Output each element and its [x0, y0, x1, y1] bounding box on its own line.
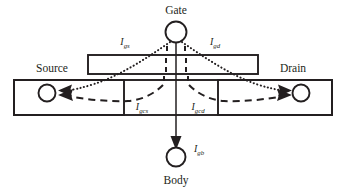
igd-subscript: gd — [213, 42, 220, 49]
body-label: Body — [164, 174, 189, 187]
igcd-dashed-path-group — [189, 85, 292, 101]
igd-path — [182, 42, 286, 91]
gate-terminal-circle — [166, 22, 187, 43]
igcd-subscript: gcd — [195, 107, 205, 114]
gate-label: Gate — [165, 4, 187, 16]
igcs-dashed-path-group — [58, 85, 163, 101]
igb-label: Igb — [193, 143, 205, 156]
source-label: Source — [36, 62, 68, 74]
mosfet-gate-current-diagram: Gate Source Drain Body Igs Igd Igcs Igcd — [0, 0, 346, 193]
igcd-label: Igcd — [190, 101, 205, 114]
gate-to-body-solid-line-group — [171, 43, 182, 151]
igcs-label: Igcs — [135, 101, 149, 114]
svg-text:Igd: Igd — [209, 36, 221, 49]
figure-canvas: Gate Source Drain Body Igs Igd Igcs Igcd — [0, 0, 346, 193]
igs-label: Igs — [119, 36, 130, 49]
svg-text:Igb: Igb — [193, 143, 205, 156]
gate-plate-rect — [88, 55, 258, 74]
svg-text:Igcs: Igcs — [135, 101, 149, 114]
drain-terminal-circle — [293, 85, 310, 102]
igd-label: Igd — [209, 36, 221, 49]
igcs-subscript: gcs — [139, 107, 148, 114]
drain-label: Drain — [280, 62, 306, 74]
svg-text:Igs: Igs — [119, 36, 130, 49]
source-terminal-circle — [39, 85, 56, 102]
igs-path — [64, 42, 170, 91]
igd-dotted-path-group — [182, 42, 292, 97]
igb-subscript: gb — [197, 149, 204, 156]
igcd-path — [189, 85, 284, 101]
svg-text:Igcd: Igcd — [190, 101, 205, 114]
igs-dotted-path-group — [58, 42, 170, 97]
body-terminal-circle — [167, 148, 186, 167]
igs-subscript: gs — [124, 42, 130, 49]
